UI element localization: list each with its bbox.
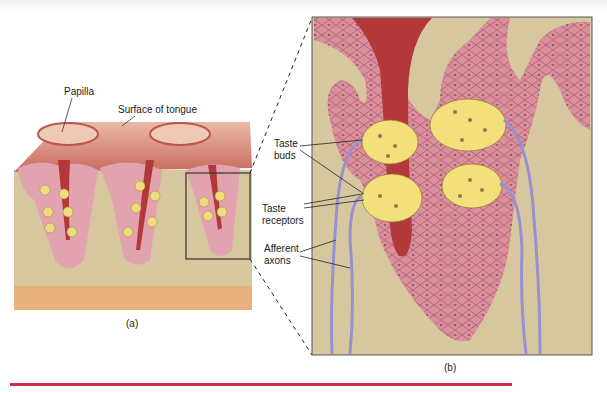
label-surface-of-tongue: Surface of tongue — [118, 104, 197, 116]
label-taste-receptors-line1: Taste — [262, 203, 286, 215]
taste-bud-diagram — [0, 0, 607, 393]
label-taste-buds-line1: Taste — [274, 138, 298, 150]
caption-b: (b) — [444, 362, 456, 374]
caption-a: (a) — [126, 318, 138, 330]
bottom-rule — [10, 383, 512, 386]
panel-a-illustration — [14, 122, 252, 310]
panel-b-illustration — [312, 17, 592, 355]
label-afferent-line1: Afferent — [264, 243, 299, 255]
label-taste-receptors-line2: receptors — [262, 215, 304, 227]
label-afferent-line2: axons — [264, 255, 291, 267]
label-papilla: Papilla — [64, 86, 94, 98]
label-taste-buds-line2: buds — [274, 150, 296, 162]
